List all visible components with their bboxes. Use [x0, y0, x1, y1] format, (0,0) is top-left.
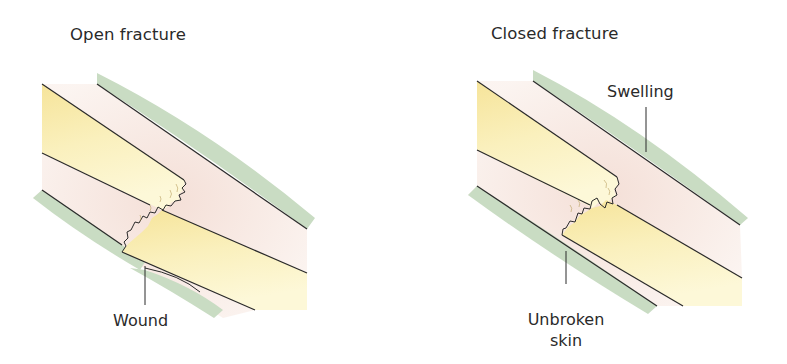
swelling-label: Swelling: [607, 81, 674, 102]
open-fracture-illustration: [0, 0, 393, 364]
unbroken-skin-label: Unbroken skin: [522, 309, 610, 351]
closed-fracture-panel: Closed fracture: [400, 0, 787, 364]
open-fracture-panel: Open fracture: [0, 0, 393, 364]
unbroken-skin-label-line1: Unbroken: [522, 309, 610, 330]
unbroken-skin-label-line2: skin: [522, 330, 610, 351]
wound-label: Wound: [113, 310, 168, 331]
